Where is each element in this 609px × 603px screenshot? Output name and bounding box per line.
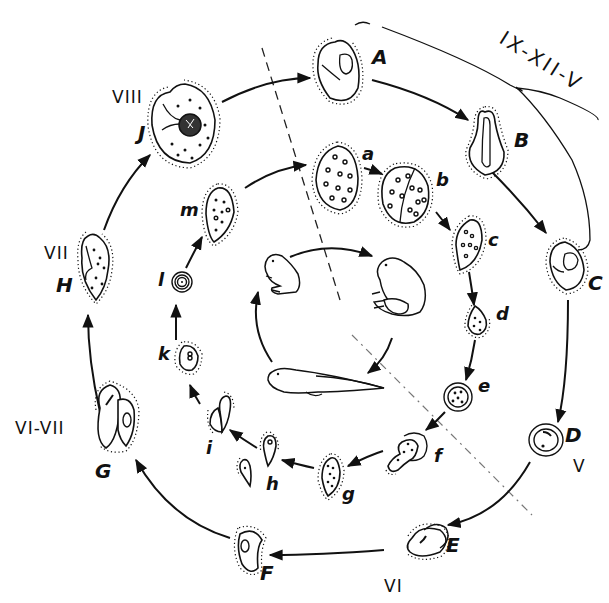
stage-label-E: E [446, 533, 460, 557]
stage-b: b [378, 163, 449, 227]
stage-label-b: b [436, 169, 449, 190]
stage-label-B: B [514, 128, 529, 152]
host-adult-frog [372, 258, 425, 316]
stage-k: k [158, 342, 202, 375]
stage-D: D V [529, 423, 586, 476]
stage-label-F: F [260, 561, 274, 585]
stage-label-A: A [370, 45, 387, 69]
life-cycle-diagram: IX-XII-V A [0, 0, 609, 603]
stage-label-k: k [158, 343, 171, 364]
month-label-D: V [573, 456, 586, 476]
stage-label-a: a [362, 143, 374, 164]
stage-A: A [313, 38, 388, 104]
month-label-H: VII [44, 243, 69, 263]
month-label-J: VIII [112, 87, 143, 107]
stage-label-J: J [134, 121, 146, 145]
stage-E: E VI [384, 524, 460, 596]
stage-label-D: D [565, 423, 582, 447]
stage-g: g [318, 454, 355, 504]
stage-i: i [206, 392, 234, 458]
host-small-frog [265, 254, 300, 294]
month-label-E: VI [384, 576, 403, 596]
month-label-G: VI-VII [15, 418, 64, 438]
stage-label-H: H [56, 273, 73, 297]
stage-B: B [466, 107, 529, 179]
stage-e: e [444, 375, 490, 411]
stage-G: G VI-VII [15, 381, 139, 483]
stage-label-C: C [588, 271, 603, 295]
stage-J: J VIII [112, 80, 220, 168]
stage-label-f: f [434, 445, 444, 466]
stage-h: h [237, 432, 279, 494]
stage-m: m [180, 184, 238, 246]
stage-F: F [234, 526, 274, 585]
stage-label-e: e [478, 375, 490, 396]
stage-C: C [546, 238, 603, 295]
stage-label-g: g [342, 483, 355, 504]
stage-label-c: c [488, 229, 499, 250]
stage-c: c [452, 216, 499, 274]
stage-d: d [465, 302, 510, 338]
stage-label-m: m [180, 199, 199, 220]
stage-H: H VII [44, 232, 113, 304]
stage-label-i: i [206, 437, 213, 458]
host-tadpole [268, 368, 384, 395]
stage-a: a [312, 142, 374, 214]
season-label: IX-XII-V [495, 26, 587, 96]
stage-label-G: G [95, 459, 111, 483]
stage-f: f [386, 433, 444, 475]
stage-label-l: l [158, 269, 165, 290]
stage-label-d: d [496, 303, 510, 324]
stage-l: l [158, 269, 192, 292]
stage-label-h: h [266, 473, 279, 494]
